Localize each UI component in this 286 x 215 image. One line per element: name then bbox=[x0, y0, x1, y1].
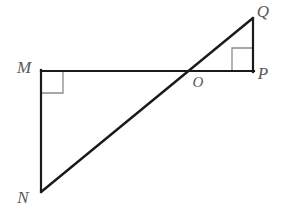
vertex-label-O: O bbox=[193, 74, 204, 90]
vertex-label-N: N bbox=[16, 188, 30, 207]
vertex-label-P: P bbox=[257, 64, 268, 83]
geometry-diagram-canvas: M N O P Q bbox=[0, 0, 286, 215]
vertex-label-M: M bbox=[16, 58, 32, 77]
geometry-figure: M N O P Q bbox=[0, 0, 286, 215]
right-angle-mark-M bbox=[41, 71, 63, 93]
segment-NQ bbox=[41, 18, 253, 192]
right-angle-mark-P bbox=[232, 48, 253, 71]
vertex-label-Q: Q bbox=[257, 2, 269, 21]
